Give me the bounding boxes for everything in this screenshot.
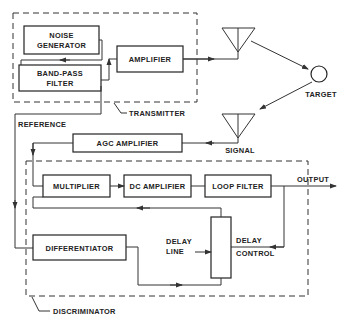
band-pass-label-1: BAND-PASS bbox=[37, 69, 83, 78]
delay-line-block bbox=[211, 217, 231, 278]
delay-line-label-2: LINE bbox=[166, 247, 184, 256]
loop-filter-label: LOOP FILTER bbox=[212, 182, 264, 191]
multiplier-block: MULTIPLIER bbox=[43, 175, 110, 197]
delay-control-label-1: DELAY bbox=[236, 236, 262, 245]
delay-line-label-1: DELAY bbox=[166, 237, 192, 246]
differentiator-block: DIFFERENTIATOR bbox=[33, 235, 126, 260]
discriminator-label: DISCRIMINATOR bbox=[53, 307, 116, 316]
receive-antenna-icon bbox=[222, 114, 255, 138]
transmit-antenna-icon bbox=[222, 28, 255, 52]
amplifier-label: AMPLIFIER bbox=[129, 55, 172, 64]
delay-control-label-2: CONTROL bbox=[236, 249, 275, 258]
loop-filter-block: LOOP FILTER bbox=[205, 175, 271, 197]
band-pass-filter-block: BAND-PASS FILTER bbox=[19, 65, 101, 91]
output-label: OUTPUT bbox=[297, 175, 329, 184]
target-label: TARGET bbox=[305, 90, 337, 99]
dc-amplifier-block: DC AMPLIFIER bbox=[124, 175, 191, 197]
differentiator-label: DIFFERENTIATOR bbox=[46, 244, 114, 253]
noise-generator-block: NOISE GENERATOR bbox=[24, 26, 99, 54]
agc-amplifier-label: AGC AMPLIFIER bbox=[97, 139, 159, 148]
noise-generator-label-2: GENERATOR bbox=[37, 41, 87, 50]
agc-amplifier-block: AGC AMPLIFIER bbox=[73, 134, 182, 152]
amplifier-block: AMPLIFIER bbox=[117, 46, 183, 72]
reference-label: REFERENCE bbox=[18, 120, 66, 129]
multiplier-label: MULTIPLIER bbox=[53, 182, 100, 191]
noise-generator-label-1: NOISE bbox=[49, 31, 74, 40]
transmitter-label: TRANSMITTER bbox=[129, 109, 186, 118]
band-pass-label-2: FILTER bbox=[46, 79, 73, 88]
block-diagram: NOISE GENERATOR BAND-PASS FILTER AMPLIFI… bbox=[0, 0, 346, 326]
signal-label: SIGNAL bbox=[225, 146, 255, 155]
dc-amplifier-label: DC AMPLIFIER bbox=[130, 182, 186, 191]
target-icon bbox=[311, 66, 327, 82]
